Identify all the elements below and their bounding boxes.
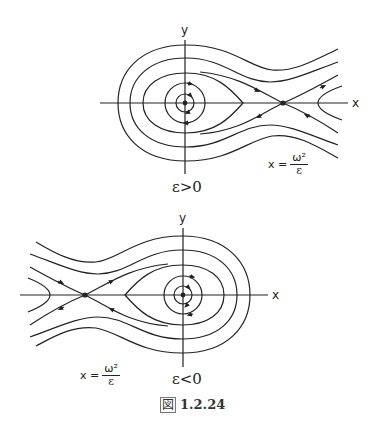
bottom-separatrix-loop (85, 264, 168, 295)
phase-portrait-diagram (0, 0, 375, 426)
top-saddle-point (281, 101, 285, 105)
top-saddle-denominator: ε (296, 165, 302, 177)
top-x-axis-label: x (352, 97, 359, 109)
top-orbit-2b (186, 58, 338, 82)
figure-caption-prefix: 図 (160, 397, 176, 413)
bottom-x-axis-label: x (272, 289, 279, 301)
bottom-orbit-3b (36, 236, 182, 262)
top-saddle-lhs: x = (268, 158, 287, 171)
bottom-saddle-denominator: ε (108, 376, 114, 388)
figure-caption-number: 1.2.24 (180, 397, 225, 412)
bottom-saddle-label: x = ω² ε (80, 363, 120, 388)
top-center-point (183, 101, 187, 105)
bottom-panel (20, 228, 268, 367)
bottom-saddle-point (83, 293, 87, 297)
top-saddle-label: x = ω² ε (268, 152, 308, 177)
figure-caption: 図1.2.24 (160, 395, 225, 412)
bottom-y-axis-label: y (179, 212, 186, 224)
top-orbit-3b (186, 45, 338, 70)
top-condition-label: ε>0 (172, 180, 202, 195)
bottom-saddle-fraction: ω² ε (102, 363, 120, 388)
bottom-condition-label: ε<0 (172, 372, 202, 387)
top-panel (100, 40, 348, 174)
top-separatrix-loop (200, 72, 283, 103)
bottom-orbit-2b (30, 250, 182, 274)
top-y-axis-label: y (181, 24, 188, 36)
top-saddle-fraction: ω² ε (290, 152, 308, 177)
bottom-center-point (181, 293, 185, 297)
bottom-saddle-lhs: x = (80, 369, 99, 382)
